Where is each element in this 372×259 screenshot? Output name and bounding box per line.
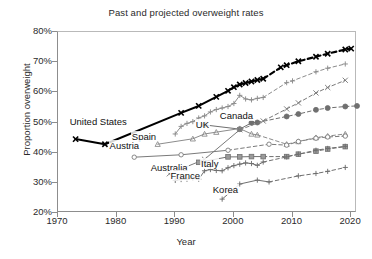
data-point-marker [249, 161, 254, 166]
series-projected-line [263, 49, 351, 79]
data-point-marker [325, 169, 330, 174]
data-point-marker [243, 96, 248, 101]
data-point-marker [249, 154, 254, 159]
series-label-canada: Canada [219, 110, 254, 121]
data-point-marker [296, 173, 301, 178]
data-point-marker [226, 155, 231, 160]
data-point-marker [179, 153, 183, 157]
y-tick-label: 80% [8, 25, 52, 36]
data-point-marker [284, 106, 289, 111]
series-united-states [73, 46, 354, 147]
series-label-france: France [170, 170, 202, 181]
series-projected-line [257, 106, 357, 123]
data-point-marker [343, 104, 348, 109]
data-point-marker [237, 162, 242, 167]
data-point-marker [261, 159, 266, 164]
data-point-marker [255, 178, 260, 183]
y-tick-label: 70% [8, 55, 52, 66]
series-label-korea: Korea [212, 184, 239, 195]
series-projected-line [263, 64, 345, 97]
data-point-marker [313, 90, 318, 95]
data-point-marker [237, 155, 242, 160]
series-label-uk: UK [195, 119, 210, 130]
series-projected-line [269, 167, 345, 181]
data-point-marker [243, 160, 248, 165]
data-point-marker [261, 154, 266, 159]
data-point-marker [314, 136, 318, 140]
y-tick-label: 40% [8, 146, 52, 157]
data-point-marker [296, 139, 300, 143]
chart-title: Past and projected overweight rates [0, 7, 372, 18]
data-point-marker [284, 114, 289, 119]
chart-figure: Past and projected overweight rates Prop… [0, 0, 372, 259]
series-label-united-states: United States [69, 116, 128, 127]
data-point-marker [132, 155, 136, 159]
data-point-marker [220, 168, 225, 173]
data-point-marker [225, 104, 230, 109]
data-point-marker [343, 78, 348, 83]
data-point-marker [325, 135, 329, 139]
data-point-marker [325, 66, 330, 71]
data-point-marker [284, 80, 289, 85]
y-axis-title: Proportion overweight [21, 30, 32, 190]
series-spain [155, 126, 348, 146]
series-label-austria: Austria [109, 140, 141, 151]
data-point-marker [355, 103, 360, 108]
data-point-marker [325, 106, 330, 111]
x-axis-title: Year [0, 236, 372, 247]
data-point-marker [313, 171, 318, 176]
data-point-marker [208, 109, 213, 114]
data-point-marker [325, 85, 330, 90]
data-point-marker [284, 143, 288, 147]
data-point-marker [231, 163, 236, 168]
data-point-marker [343, 165, 348, 170]
y-tick-label: 60% [8, 85, 52, 96]
series-label-italy: Italy [200, 158, 219, 169]
data-point-marker [343, 134, 347, 138]
data-point-marker [290, 78, 295, 83]
y-tick-label: 50% [8, 116, 52, 127]
data-point-marker [225, 165, 230, 170]
data-point-marker [343, 61, 348, 66]
data-point-marker [313, 69, 318, 74]
data-point-marker [266, 179, 271, 184]
data-point-marker [249, 97, 254, 102]
data-point-marker [296, 112, 301, 117]
data-point-marker [226, 148, 230, 152]
data-point-marker [261, 95, 266, 100]
data-point-marker [255, 96, 260, 101]
data-point-marker [267, 142, 271, 146]
data-point-marker [184, 121, 189, 126]
data-point-marker [296, 100, 301, 105]
data-point-marker [255, 163, 260, 168]
y-tick-label: 30% [8, 176, 52, 187]
data-point-marker [313, 107, 318, 112]
